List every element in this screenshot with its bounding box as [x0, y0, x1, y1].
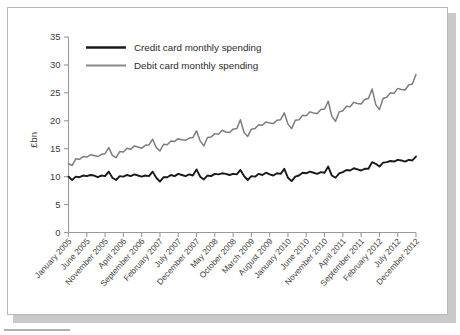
y-tick-label: 35	[50, 31, 61, 42]
x-axis: January 2005June 2005November 2005April …	[32, 233, 421, 289]
chart-canvas: 05101520253035 £bn January 2005June 2005…	[0, 0, 460, 335]
line-chart: 05101520253035 £bn January 2005June 2005…	[0, 0, 460, 335]
y-tick-label: 25	[50, 87, 61, 98]
y-tick-label: 20	[50, 115, 61, 126]
y-tick-label: 10	[50, 171, 61, 182]
footer-rule	[4, 329, 70, 331]
y-tick-label: 30	[50, 59, 61, 70]
x-tick-labels: January 2005June 2005November 2005April …	[32, 236, 421, 289]
y-axis: 05101520253035 £bn	[28, 31, 69, 238]
y-axis-title: £bn	[28, 132, 39, 148]
legend: Credit card monthly spending Debit card …	[86, 42, 261, 71]
series-lines	[69, 74, 417, 181]
legend-label-credit-card: Credit card monthly spending	[134, 42, 261, 53]
y-tick-marks	[64, 37, 69, 233]
legend-label-debit-card: Debit card monthly spending	[134, 60, 258, 71]
y-tick-label: 5	[55, 199, 60, 210]
y-tick-label: 15	[50, 143, 61, 154]
series-line-credit-card	[69, 157, 417, 182]
y-tick-labels: 05101520253035	[50, 31, 61, 238]
series-line-debit-card	[69, 74, 417, 165]
y-tick-label: 0	[55, 227, 60, 238]
